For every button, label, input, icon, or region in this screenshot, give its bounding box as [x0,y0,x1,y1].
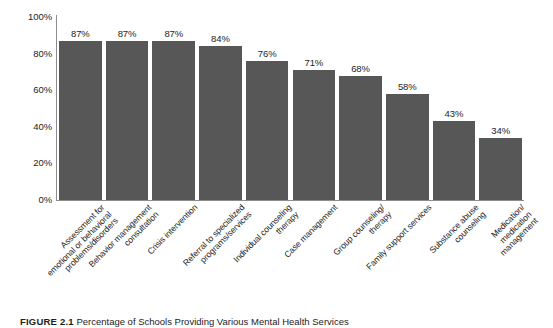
bar-value-label: 84% [189,33,252,44]
x-axis-label: Substance abusecounseling [428,203,487,262]
bar-slot: 87% [106,17,149,200]
bar-slot: 43% [433,17,476,200]
bar-value-label: 34% [469,125,532,136]
y-axis-tick-labels: 0%20%40%60%80%100% [0,0,52,328]
bar-slot: 71% [293,17,336,200]
x-axis-category-labels: Assessment foremotional or behavioralpro… [57,203,553,303]
bar[interactable] [106,41,149,200]
bar-slot: 76% [246,17,289,200]
bar[interactable] [199,46,242,200]
y-axis-tick-60: 60% [6,85,52,95]
bar-value-label: 68% [329,63,392,74]
bar-value-label: 58% [376,81,439,92]
figure-caption: FIGURE 2.1 Percentage of Schools Providi… [20,316,540,328]
y-axis-tick-20: 20% [6,158,52,168]
x-axis-label: Medication/medicationmanagement [485,203,540,258]
bar-slot: 68% [339,17,382,200]
figure-container: 0%20%40%60%80%100% 87%87%87%84%76%71%68%… [0,0,553,328]
y-axis-tick-100: 100% [6,12,52,22]
bar[interactable] [152,41,195,200]
bar[interactable] [339,76,382,200]
figure-caption-text: Percentage of Schools Providing Various … [76,316,348,327]
bar-value-label: 43% [423,108,486,119]
y-axis-tick-40: 40% [6,122,52,132]
y-axis-tick-0: 0% [6,195,52,205]
bar[interactable] [246,61,289,200]
plot-area: 87%87%87%84%76%71%68%58%43%34% [57,17,524,200]
bar[interactable] [479,138,522,200]
bar-slot: 87% [59,17,102,200]
y-axis-tick-80: 80% [6,49,52,59]
bar-slot: 34% [479,17,522,200]
bar[interactable] [59,41,102,200]
figure-caption-number: FIGURE 2.1 [20,316,74,327]
bar[interactable] [293,70,336,200]
bar-slot: 87% [152,17,195,200]
bar-slot: 84% [199,17,242,200]
x-axis-line [56,200,524,201]
